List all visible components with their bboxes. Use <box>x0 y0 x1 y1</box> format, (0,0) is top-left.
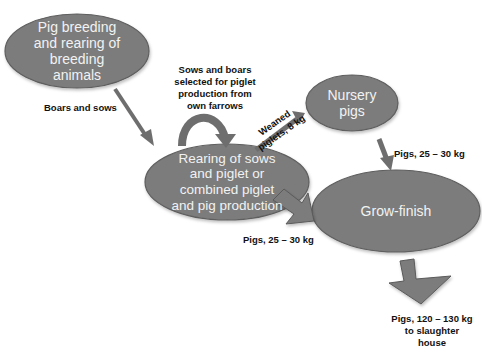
node-grow-finish-shape <box>312 170 480 252</box>
edge-text-line: Sows and boars <box>160 64 270 76</box>
edge-text-line: Boars and sows <box>44 102 117 114</box>
edge-label-nursery-to-grow-finish: Pigs, 25 – 30 kg <box>394 148 465 160</box>
block-arrow-to-slaughter-icon <box>389 259 451 304</box>
edge-text-line: production from <box>160 88 270 100</box>
edge-text-line: Pigs, 25 – 30 kg <box>394 148 465 160</box>
edge-label-boars-and-sows: Boars and sows <box>44 102 117 114</box>
edge-text-line: Pigs, 120 – 130 kg <box>382 313 482 325</box>
arrow-nursery-to-grow-finish-icon <box>379 139 394 171</box>
edge-text-line: own farrows <box>160 100 270 112</box>
node-nursery-shape <box>306 75 398 131</box>
diagram-canvas <box>0 0 482 363</box>
curved-arrow-self-loop-icon <box>182 118 236 148</box>
node-breeding-shape <box>5 14 149 88</box>
arrow-breeding-to-rearing-icon <box>115 89 154 146</box>
edge-text-line: selected for piglet <box>160 76 270 88</box>
node-rearing-shape <box>145 144 309 220</box>
edge-label-rearing-to-grow-finish: Pigs, 25 – 30 kg <box>243 234 314 246</box>
edge-text-line: Pigs, 25 – 30 kg <box>243 234 314 246</box>
edge-text-line: to slaughter <box>382 325 482 337</box>
edge-label-self-selection: Sows and boars selected for piglet produ… <box>160 64 270 112</box>
edge-label-to-slaughter: Pigs, 120 – 130 kg to slaughter house <box>382 313 482 349</box>
edge-text-line: house <box>382 337 482 349</box>
